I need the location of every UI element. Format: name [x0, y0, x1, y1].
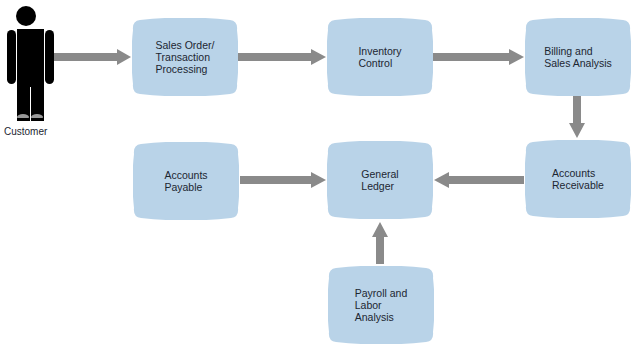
arrowhead-icon [311, 172, 326, 188]
node-billing-sales-analysis: Billing and Sales Analysis [525, 18, 631, 96]
node-accounts-receivable: Accounts Receivable [525, 140, 631, 218]
node-sales-order: Sales Order/ Transaction Processing [132, 18, 238, 96]
person-icon [0, 0, 60, 140]
flow-diagram: Customer Sales Order/ Transaction Proces… [0, 0, 636, 347]
arrowhead-icon [569, 123, 585, 138]
arrowhead-icon [372, 222, 388, 237]
arrowhead-icon [311, 49, 326, 65]
node-label: Sales Order/ Transaction Processing [156, 39, 215, 75]
node-general-ledger: General Ledger [327, 141, 433, 219]
arrowhead-icon [117, 49, 131, 65]
node-payroll-labor-analysis: Payroll and Labor Analysis [328, 266, 434, 344]
node-accounts-payable: Accounts Payable [133, 142, 239, 220]
customer-actor: Customer [0, 0, 60, 140]
node-label: Billing and Sales Analysis [544, 45, 612, 69]
customer-label: Customer [4, 126, 47, 137]
node-label: General Ledger [361, 168, 398, 192]
node-label: Accounts Receivable [552, 167, 604, 191]
node-label: Payroll and Labor Analysis [355, 287, 408, 323]
node-inventory-control: Inventory Control [327, 18, 433, 96]
node-label: Inventory Control [358, 45, 401, 69]
arrowhead-icon [509, 49, 524, 65]
arrowhead-icon [434, 172, 449, 188]
node-label: Accounts Payable [164, 169, 207, 193]
